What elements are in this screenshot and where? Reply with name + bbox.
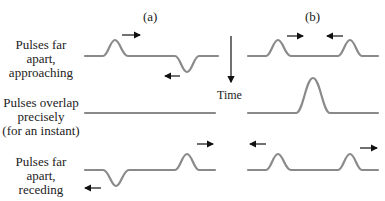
wave-a-approaching — [85, 40, 218, 72]
wave-a-receding — [85, 154, 215, 186]
waves-svg — [0, 0, 385, 201]
wave-b-receding — [248, 154, 378, 170]
wave-b-approaching — [248, 40, 378, 56]
wave-b-overlap — [248, 78, 378, 113]
wave-superposition-diagram: (a) (b) Pulses far apart, approaching Pu… — [0, 0, 385, 201]
